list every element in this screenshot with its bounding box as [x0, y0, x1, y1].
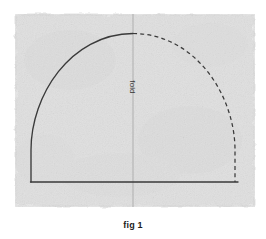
- fold-label: fold: [125, 67, 139, 107]
- figure-drawing: [0, 0, 266, 239]
- figure-caption: fig 1: [0, 220, 266, 231]
- figure-container: fold fig 1: [0, 0, 266, 239]
- paper-sheet: [15, 14, 255, 207]
